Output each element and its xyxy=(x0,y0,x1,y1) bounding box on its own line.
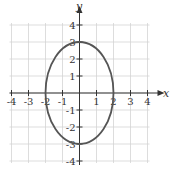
y-tick-label: -4 xyxy=(66,156,76,167)
axes xyxy=(10,6,165,165)
y-tick-label: 4 xyxy=(69,20,75,31)
y-tick-label: 2 xyxy=(69,54,75,65)
x-tick-label: 4 xyxy=(144,96,150,107)
x-tick-label: 1 xyxy=(93,96,99,107)
x-tick-label: -3 xyxy=(24,96,34,107)
y-tick-label: -1 xyxy=(66,105,76,116)
x-tick-label: -4 xyxy=(7,96,17,107)
ellipse-plot: -4-3-2-11234-4-3-2-11234 x y xyxy=(0,0,174,175)
y-axis-label: y xyxy=(75,0,83,13)
y-tick-label: -2 xyxy=(66,122,76,133)
x-axis-label: x xyxy=(163,87,170,100)
x-tick-label: 3 xyxy=(127,96,133,107)
y-tick-label: 1 xyxy=(69,71,75,82)
